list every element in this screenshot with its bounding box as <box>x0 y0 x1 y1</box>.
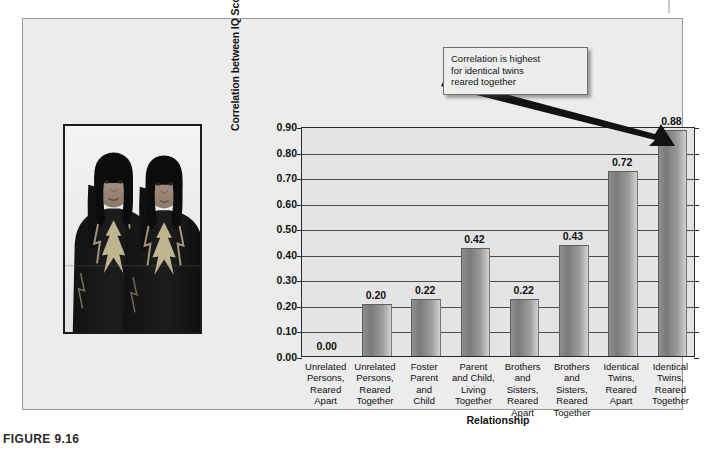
x-axis-title: Relationship <box>301 414 695 426</box>
y-axis-tick-labels: 0.000.100.200.300.400.500.600.700.800.90 <box>257 127 297 357</box>
bar[interactable] <box>510 299 540 356</box>
y-axis-tick-label: 0.70 <box>277 172 297 184</box>
bar-slot: 0.88 <box>647 128 696 356</box>
bar[interactable] <box>658 130 688 356</box>
callout-line-2: for identical twins <box>451 65 587 77</box>
bar-slot: 0.42 <box>450 128 499 356</box>
bar[interactable] <box>362 304 392 356</box>
y-axis-tick-label: 0.40 <box>277 249 297 261</box>
bar[interactable] <box>559 245 589 356</box>
bar[interactable] <box>608 171 638 356</box>
bar-value-label: 0.42 <box>450 233 499 245</box>
bar-slot: 0.20 <box>351 128 400 356</box>
x-axis-category-label-line: Reared <box>642 384 699 395</box>
y-axis-tick-label: 0.50 <box>277 223 297 235</box>
x-axis-category-label-line: Identical <box>642 361 699 372</box>
bar-value-label: 0.00 <box>302 340 351 352</box>
bar-value-label: 0.22 <box>401 284 450 296</box>
bar-slot: 0.22 <box>401 128 450 356</box>
bar-slot: 0.22 <box>499 128 548 356</box>
y-axis-tick-mark-left <box>297 358 302 359</box>
y-axis-tick-label: 0.80 <box>277 147 297 159</box>
x-axis-category-label: IdenticalTwins,RearedTogether <box>642 361 699 407</box>
y-axis-tick-label: 0.60 <box>277 198 297 210</box>
y-axis-tick-label: 0.00 <box>277 351 297 363</box>
bar-slot: 0.72 <box>598 128 647 356</box>
y-axis-tick-label: 0.20 <box>277 300 297 312</box>
y-axis-tick-label: 0.90 <box>277 121 297 133</box>
identical-twins-photograph <box>63 124 202 334</box>
callout-line-3: reared together <box>451 76 587 88</box>
bars-layer: 0.000.200.220.420.220.430.720.88 <box>302 128 694 356</box>
bar[interactable] <box>461 248 491 356</box>
bar-value-label: 0.88 <box>647 115 696 127</box>
callout-line-1: Correlation is highest <box>451 53 587 65</box>
y-axis-tick-mark-right <box>694 358 699 359</box>
y-axis-tick-label: 0.30 <box>277 274 297 286</box>
y-axis-tick-label: 0.10 <box>277 325 297 337</box>
bar-slot: 0.00 <box>302 128 351 356</box>
x-axis-category-label-line: Twins, <box>642 372 699 383</box>
registration-mark <box>668 0 670 13</box>
bar[interactable] <box>411 299 441 356</box>
callout-annotation: Correlation is highest for identical twi… <box>443 47 588 95</box>
bar-slot: 0.43 <box>548 128 597 356</box>
bar-value-label: 0.43 <box>548 230 597 242</box>
bar-value-label: 0.22 <box>499 284 548 296</box>
bar-value-label: 0.72 <box>598 156 647 168</box>
figure-panel: Correlation between IQ Scores 0.000.100.… <box>22 18 683 410</box>
figure-caption: FIGURE 9.16 <box>3 432 79 446</box>
plot-area: 0.000.200.220.420.220.430.720.88 <box>301 127 695 357</box>
bar-value-label: 0.20 <box>351 289 400 301</box>
y-axis-title: Correlation between IQ Scores <box>229 0 241 131</box>
photo-graphic <box>65 126 200 332</box>
x-axis-category-label-line: Together <box>642 395 699 406</box>
